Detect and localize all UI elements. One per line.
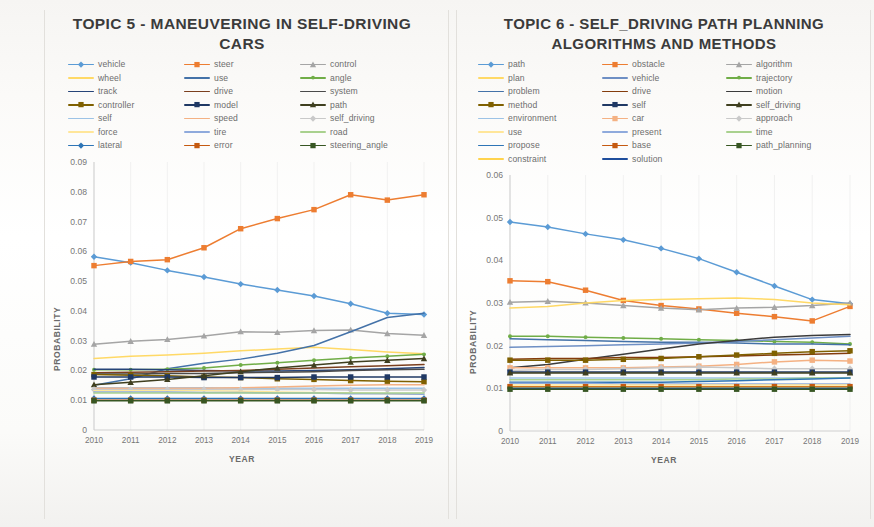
legend-label: self_driving bbox=[330, 113, 375, 123]
svg-text:0.02: 0.02 bbox=[70, 365, 87, 375]
legend-item-control[interactable]: control bbox=[300, 58, 416, 71]
legend-swatch-icon bbox=[726, 100, 752, 109]
legend-label: wheel bbox=[98, 73, 121, 83]
legend-item-error[interactable]: error bbox=[184, 139, 300, 152]
legend-item-angle[interactable]: angle bbox=[300, 72, 416, 85]
legend-item-propose[interactable]: propose bbox=[478, 139, 602, 152]
legend-item-use[interactable]: use bbox=[478, 126, 602, 139]
legend-item-path_planning[interactable]: path_planning bbox=[726, 139, 850, 152]
legend-label: force bbox=[98, 127, 118, 137]
legend-label: speed bbox=[214, 113, 238, 123]
legend-item-time[interactable]: time bbox=[726, 126, 850, 139]
legend-label: constraint bbox=[508, 154, 546, 164]
legend-swatch-icon bbox=[184, 114, 210, 123]
legend-label: vehicle bbox=[98, 59, 125, 69]
legend-item-solution[interactable]: solution bbox=[602, 153, 726, 166]
legend-item-base[interactable]: base bbox=[602, 139, 726, 152]
legend-swatch-icon bbox=[184, 141, 210, 150]
legend-label: controller bbox=[98, 100, 134, 110]
legend-swatch-icon bbox=[602, 114, 628, 123]
legend-item-force[interactable]: force bbox=[68, 126, 184, 139]
legend-item-use[interactable]: use bbox=[184, 72, 300, 85]
legend-swatch-icon bbox=[726, 141, 752, 150]
legend-swatch-icon bbox=[478, 73, 504, 82]
legend-label: base bbox=[632, 140, 651, 150]
legend-swatch-icon bbox=[68, 127, 94, 136]
legend-item-car[interactable]: car bbox=[602, 112, 726, 125]
legend-swatch-icon bbox=[68, 87, 94, 96]
legend-label: tire bbox=[214, 127, 226, 137]
legend-item-path[interactable]: path bbox=[478, 58, 602, 71]
legend-item-drive[interactable]: drive bbox=[184, 85, 300, 98]
legend-label: drive bbox=[214, 86, 233, 96]
svg-text:2015: 2015 bbox=[690, 437, 709, 446]
legend-item-track[interactable]: track bbox=[68, 85, 184, 98]
legend-item-path[interactable]: path bbox=[300, 99, 416, 112]
legend-item-controller[interactable]: controller bbox=[68, 99, 184, 112]
legend-label: system bbox=[330, 86, 358, 96]
legend-item-approach[interactable]: approach bbox=[726, 112, 850, 125]
legend-swatch-icon bbox=[726, 127, 752, 136]
legend-label: obstacle bbox=[632, 59, 665, 69]
legend-label: track bbox=[98, 86, 117, 96]
legend-label: self bbox=[98, 113, 112, 123]
svg-text:2016: 2016 bbox=[728, 437, 747, 446]
legend-label: path_planning bbox=[756, 140, 811, 150]
chart-legend-topic6: pathplanproblemmethodenvironmentusepropo… bbox=[462, 58, 866, 165]
legend-item-model[interactable]: model bbox=[184, 99, 300, 112]
legend-item-self_driving[interactable]: self_driving bbox=[300, 112, 416, 125]
legend-item-road[interactable]: road bbox=[300, 126, 416, 139]
legend-label: angle bbox=[330, 73, 352, 83]
legend-item-self[interactable]: self bbox=[68, 112, 184, 125]
legend-label: plan bbox=[508, 73, 525, 83]
legend-swatch-icon bbox=[300, 87, 326, 96]
legend-item-vehicle[interactable]: vehicle bbox=[602, 72, 726, 85]
legend-swatch-icon bbox=[726, 114, 752, 123]
legend-item-wheel[interactable]: wheel bbox=[68, 72, 184, 85]
svg-text:2013: 2013 bbox=[614, 437, 633, 446]
legend-item-problem[interactable]: problem bbox=[478, 85, 602, 98]
legend-item-method[interactable]: method bbox=[478, 99, 602, 112]
legend-item-speed[interactable]: speed bbox=[184, 112, 300, 125]
legend-item-present[interactable]: present bbox=[602, 126, 726, 139]
legend-label: time bbox=[756, 127, 773, 137]
legend-label: approach bbox=[756, 113, 793, 123]
legend-column: algorithmtrajectorymotionself_drivingapp… bbox=[726, 58, 850, 165]
legend-column: steerusedrivemodelspeedtireerror bbox=[184, 58, 300, 152]
svg-text:2013: 2013 bbox=[195, 436, 214, 445]
legend-swatch-icon bbox=[478, 141, 504, 150]
legend-item-steer[interactable]: steer bbox=[184, 58, 300, 71]
legend-item-steering_angle[interactable]: steering_angle bbox=[300, 139, 416, 152]
legend-item-plan[interactable]: plan bbox=[478, 72, 602, 85]
svg-text:2011: 2011 bbox=[539, 437, 557, 446]
legend-item-drive[interactable]: drive bbox=[602, 85, 726, 98]
legend-item-environment[interactable]: environment bbox=[478, 112, 602, 125]
chart-panel-topic5: TOPIC 5 - MANEUVERING IN SELF-DRIVING CA… bbox=[46, 14, 438, 514]
legend-item-algorithm[interactable]: algorithm bbox=[726, 58, 850, 71]
legend-label: motion bbox=[756, 86, 782, 96]
legend-item-self_driving[interactable]: self_driving bbox=[726, 99, 850, 112]
svg-text:0: 0 bbox=[498, 426, 503, 436]
legend-label: environment bbox=[508, 113, 556, 123]
legend-item-system[interactable]: system bbox=[300, 85, 416, 98]
legend-label: method bbox=[508, 100, 537, 110]
legend-label: self_driving bbox=[756, 100, 801, 110]
legend-item-constraint[interactable]: constraint bbox=[478, 153, 602, 166]
legend-label: trajectory bbox=[756, 73, 792, 83]
svg-text:0.08: 0.08 bbox=[70, 186, 87, 196]
svg-text:2017: 2017 bbox=[765, 437, 784, 446]
legend-swatch-icon bbox=[300, 141, 326, 150]
legend-item-self[interactable]: self bbox=[602, 99, 726, 112]
legend-swatch-icon bbox=[602, 73, 628, 82]
legend-item-motion[interactable]: motion bbox=[726, 85, 850, 98]
legend-swatch-icon bbox=[184, 60, 210, 69]
legend-column: obstaclevehicledriveselfcarpresentbaseso… bbox=[602, 58, 726, 165]
legend-item-vehicle[interactable]: vehicle bbox=[68, 58, 184, 71]
legend-swatch-icon bbox=[300, 127, 326, 136]
legend-swatch-icon bbox=[478, 60, 504, 69]
legend-item-obstacle[interactable]: obstacle bbox=[602, 58, 726, 71]
legend-item-trajectory[interactable]: trajectory bbox=[726, 72, 850, 85]
legend-swatch-icon bbox=[602, 60, 628, 69]
legend-item-tire[interactable]: tire bbox=[184, 126, 300, 139]
legend-item-lateral[interactable]: lateral bbox=[68, 139, 184, 152]
